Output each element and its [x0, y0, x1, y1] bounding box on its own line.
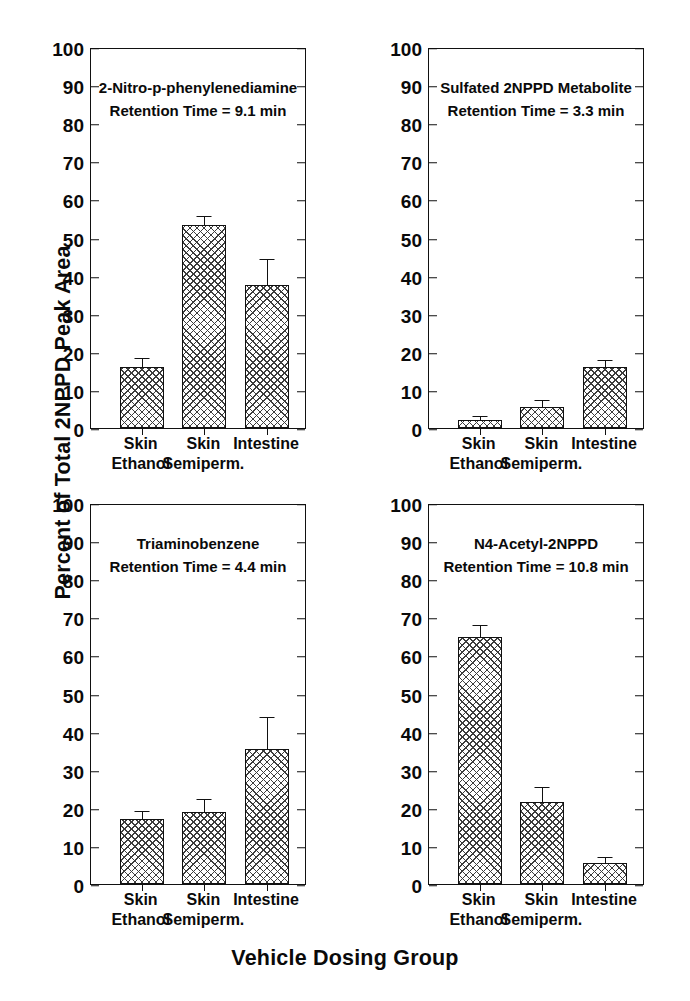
y-tick-mark	[297, 504, 305, 505]
error-bar-cap	[472, 416, 487, 417]
y-tick-mark	[635, 771, 643, 772]
error-bar	[605, 858, 606, 863]
y-tick-label: 70	[63, 610, 84, 629]
y-tick-mark	[91, 239, 99, 240]
x-tick-label-line2: Ethanol	[449, 910, 508, 930]
y-tick-label: 50	[401, 230, 422, 249]
error-bar-cap	[260, 717, 275, 718]
x-tick-label-line2: Semiperm.	[162, 910, 244, 930]
y-tick-label: 60	[63, 648, 84, 667]
error-bar	[480, 417, 481, 420]
y-tick-mark	[635, 809, 643, 810]
y-tick-mark	[635, 695, 643, 696]
y-tick-label: 90	[401, 534, 422, 553]
y-tick-mark	[91, 695, 99, 696]
y-tick-label: 90	[63, 534, 84, 553]
y-tick-label: 70	[401, 610, 422, 629]
bar	[120, 819, 164, 884]
y-tick-mark	[297, 847, 305, 848]
y-tick-mark	[91, 771, 99, 772]
x-tick-label-line2: Semiperm.	[162, 454, 244, 474]
y-tick-mark	[635, 580, 643, 581]
y-tick-mark	[297, 619, 305, 620]
bar	[583, 367, 627, 428]
y-tick-mark	[297, 657, 305, 658]
y-tick-mark	[91, 163, 99, 164]
y-tick-mark	[91, 391, 99, 392]
x-tick-label: SkinEthanol	[111, 890, 170, 931]
x-tick-label-line2: Ethanol	[449, 454, 508, 474]
x-tick-label-line1: Intestine	[233, 434, 299, 454]
x-tick-label-line1: Skin	[500, 890, 582, 910]
y-tick-mark	[91, 429, 99, 430]
error-bar	[267, 260, 268, 285]
y-tick-label: 30	[63, 762, 84, 781]
x-tick-label-line1: Intestine	[571, 890, 637, 910]
x-tick-label-line2: Ethanol	[111, 454, 170, 474]
x-tick-label: SkinSemiperm.	[500, 890, 582, 931]
y-tick-mark	[297, 771, 305, 772]
x-tick-label: Intestine	[571, 434, 637, 454]
y-tick-mark	[635, 201, 643, 202]
y-tick-mark	[429, 353, 437, 354]
y-tick-mark	[635, 619, 643, 620]
y-tick-mark	[635, 48, 643, 49]
y-tick-label: 90	[401, 78, 422, 97]
y-tick-mark	[297, 885, 305, 886]
y-tick-mark	[635, 239, 643, 240]
y-tick-mark	[429, 809, 437, 810]
y-tick-label: 0	[73, 421, 84, 440]
y-tick-label: 0	[73, 877, 84, 896]
y-tick-label: 0	[411, 877, 422, 896]
bar	[583, 863, 627, 884]
y-tick-mark	[429, 771, 437, 772]
y-tick-label: 40	[401, 268, 422, 287]
bar	[245, 285, 289, 428]
error-bar-cap	[472, 625, 487, 626]
y-tick-label: 30	[63, 306, 84, 325]
panel-title: Triaminobenzene	[91, 532, 305, 555]
y-tick-mark	[91, 315, 99, 316]
error-bar-cap	[197, 799, 212, 800]
y-tick-mark	[635, 429, 643, 430]
x-tick-label: Intestine	[233, 434, 299, 454]
y-tick-mark	[297, 315, 305, 316]
panel-retention-time: Retention Time = 4.4 min	[91, 555, 305, 578]
y-tick-mark	[635, 277, 643, 278]
x-tick-label-line1: Skin	[111, 890, 170, 910]
x-tick-label-line2: Semiperm.	[500, 454, 582, 474]
y-tick-mark	[297, 239, 305, 240]
y-tick-label: 70	[401, 154, 422, 173]
y-tick-mark	[91, 847, 99, 848]
y-tick-label: 20	[401, 800, 422, 819]
y-tick-mark	[91, 733, 99, 734]
panel-title: Sulfated 2NPPD Metabolite	[429, 76, 643, 99]
error-bar-cap	[134, 811, 149, 812]
y-tick-mark	[635, 733, 643, 734]
y-tick-label: 10	[401, 382, 422, 401]
y-tick-mark	[91, 504, 99, 505]
y-tick-mark	[429, 580, 437, 581]
y-tick-label: 20	[63, 800, 84, 819]
bar	[245, 749, 289, 884]
y-tick-label: 80	[401, 116, 422, 135]
y-tick-mark	[429, 657, 437, 658]
x-tick-label: Intestine	[233, 890, 299, 910]
y-tick-mark	[429, 48, 437, 49]
y-tick-label: 10	[63, 382, 84, 401]
y-tick-mark	[635, 847, 643, 848]
y-tick-label: 60	[401, 648, 422, 667]
y-tick-mark	[297, 733, 305, 734]
error-bar-cap	[197, 216, 212, 217]
y-tick-label: 100	[390, 496, 422, 515]
plot-area: 01020304050607080901002-Nitro-p-phenylen…	[90, 48, 306, 429]
x-tick-label: SkinEthanol	[111, 434, 170, 475]
y-tick-mark	[429, 391, 437, 392]
error-bar	[267, 718, 268, 748]
y-tick-mark	[429, 239, 437, 240]
x-tick-label: SkinSemiperm.	[162, 890, 244, 931]
bar	[520, 802, 564, 884]
y-tick-label: 0	[411, 421, 422, 440]
y-tick-mark	[429, 885, 437, 886]
x-tick-label: SkinEthanol	[449, 434, 508, 475]
